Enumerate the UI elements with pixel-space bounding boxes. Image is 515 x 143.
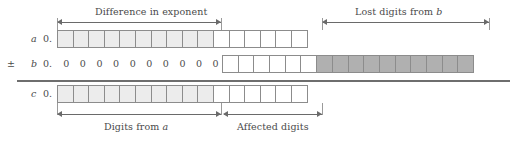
caption-affected-digits-text: Affected digits: [237, 121, 309, 132]
digit-cell: [260, 30, 277, 48]
zero-digit: 0: [141, 58, 158, 69]
digit-cell: [166, 30, 183, 48]
row-radix-c: 0.: [43, 88, 52, 99]
digit-cell: [291, 30, 308, 48]
tick-difference-right: [221, 18, 222, 30]
arrow-lost-digits-head-right: [484, 19, 489, 25]
row-radix-a-text: 0.: [43, 33, 52, 44]
arrow-difference-in-exponent-head-right: [216, 19, 221, 25]
digit-cell: [135, 30, 152, 48]
digit-cell: [222, 55, 239, 73]
digit-cell: [73, 30, 90, 48]
digit-cell: [135, 85, 152, 103]
arrow-difference-in-exponent-line: [58, 22, 221, 23]
digit-cell: [88, 30, 105, 48]
digit-cell: [363, 55, 380, 73]
row-radix-a: 0.: [43, 33, 52, 44]
caption-lost-digits-from-b: Lost digits from b: [355, 6, 442, 17]
row-label-b: b: [31, 58, 37, 69]
row-label-b-var: b: [31, 58, 37, 69]
digit-cell: [197, 85, 214, 103]
digit-strip-c: [57, 85, 308, 103]
digit-cell: [379, 55, 396, 73]
digit-cell: [213, 30, 230, 48]
digit-cell: [244, 85, 261, 103]
digit-cell: [300, 55, 317, 73]
digit-cell: [213, 85, 230, 103]
digit-cell: [260, 85, 277, 103]
zero-digit: 0: [124, 58, 141, 69]
arrow-lost-digits-head-left: [322, 19, 327, 25]
digit-cell: [57, 85, 74, 103]
row-label-c-var: c: [31, 88, 36, 99]
digit-cell: [348, 55, 365, 73]
tick-lost-digits-right: [489, 18, 490, 30]
digit-cell: [269, 55, 286, 73]
floating-point-addition-diagram: Difference in exponent Lost digits from …: [0, 0, 515, 143]
digit-cell: [119, 85, 136, 103]
digit-cell: [316, 55, 333, 73]
digit-cell: [244, 30, 261, 48]
arrow-digits-from-a-line: [58, 114, 221, 115]
row-radix-b-text: 0.: [43, 58, 52, 69]
row-radix-b: 0.: [43, 58, 52, 69]
digit-cell: [151, 30, 168, 48]
digit-cell: [229, 85, 246, 103]
arrow-affected-digits-head-left: [223, 111, 228, 117]
digit-cell: [88, 85, 105, 103]
sum-divider-rule: [17, 80, 510, 82]
digit-cell: [253, 55, 270, 73]
caption-difference-in-exponent: Difference in exponent: [95, 6, 207, 17]
row-sign-b-text: ±: [7, 58, 15, 69]
digit-cell: [426, 55, 443, 73]
digit-cell: [442, 55, 459, 73]
digit-cell: [275, 85, 292, 103]
digit-cell: [332, 55, 349, 73]
digit-cell: [182, 30, 199, 48]
digit-cell: [275, 30, 292, 48]
zero-digit: 0: [191, 58, 208, 69]
digit-strip-a: [57, 30, 308, 48]
caption-affected-digits: Affected digits: [237, 121, 309, 132]
caption-lost-digits-prefix: Lost digits from: [355, 6, 436, 17]
row-radix-c-text: 0.: [43, 88, 52, 99]
digit-cell: [229, 30, 246, 48]
digit-cell: [291, 85, 308, 103]
digit-cell: [182, 85, 199, 103]
caption-digits-from-a: Digits from a: [104, 121, 168, 132]
digit-cell: [457, 55, 474, 73]
digit-cell: [104, 30, 121, 48]
zero-digit: 0: [158, 58, 175, 69]
digit-cell: [104, 85, 121, 103]
arrow-lost-digits-line: [323, 22, 489, 23]
digit-cell: [410, 55, 427, 73]
digit-cell: [119, 30, 136, 48]
digit-cell: [395, 55, 412, 73]
arrow-digits-from-a-head-left: [57, 111, 62, 117]
digit-cell: [151, 85, 168, 103]
zero-digit: 0: [108, 58, 125, 69]
zero-digit: 0: [58, 58, 75, 69]
row-zeros-b: 0000000000: [58, 58, 224, 69]
arrow-difference-in-exponent-head-left: [57, 19, 62, 25]
digit-cell: [238, 55, 255, 73]
arrow-affected-digits-line: [224, 114, 322, 115]
zero-digit: 0: [174, 58, 191, 69]
caption-difference-in-exponent-text: Difference in exponent: [95, 6, 207, 17]
digit-cell: [285, 55, 302, 73]
digit-cell: [197, 30, 214, 48]
zero-digit: 0: [75, 58, 92, 69]
tick-digits-from-a-right: [221, 103, 222, 115]
arrow-digits-from-a-head-right: [216, 111, 221, 117]
zero-digit: 0: [91, 58, 108, 69]
row-label-a-var: a: [31, 33, 37, 44]
arrow-affected-digits-head-right: [317, 111, 322, 117]
row-label-a: a: [31, 33, 37, 44]
digit-cell: [73, 85, 90, 103]
tick-affected-digits-right: [322, 103, 323, 115]
digit-strip-b: [222, 55, 474, 73]
caption-digits-from-a-prefix: Digits from: [104, 121, 163, 132]
row-sign-b: ±: [7, 58, 15, 69]
caption-lost-digits-var: b: [436, 6, 442, 17]
digit-cell: [57, 30, 74, 48]
